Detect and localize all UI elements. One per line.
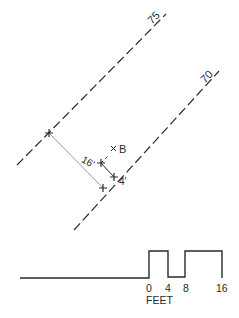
scale-tick-0: 0: [146, 282, 152, 294]
dimension-line-4ft: [101, 163, 114, 177]
contour-line-70: 70: [74, 68, 219, 230]
contour-label-75: 75: [145, 9, 162, 26]
scale-tick-16: 16: [216, 282, 228, 294]
bar-scale: 0 4 8 16 FEET: [20, 251, 228, 306]
diagram-canvas: 75 70 B 16' 4' 0 4 8 16 FEET: [0, 0, 239, 318]
scale-tick-8: 8: [183, 282, 189, 294]
point-b: B: [111, 143, 126, 155]
contour-line-75: 75: [17, 9, 166, 165]
scale-unit: FEET: [146, 294, 173, 306]
point-b-label: B: [119, 143, 126, 155]
dashed-guide: [101, 155, 109, 163]
dimension-label-4ft: 4': [119, 176, 127, 187]
scale-tick-4: 4: [165, 282, 171, 294]
contour-label-70: 70: [198, 68, 215, 85]
